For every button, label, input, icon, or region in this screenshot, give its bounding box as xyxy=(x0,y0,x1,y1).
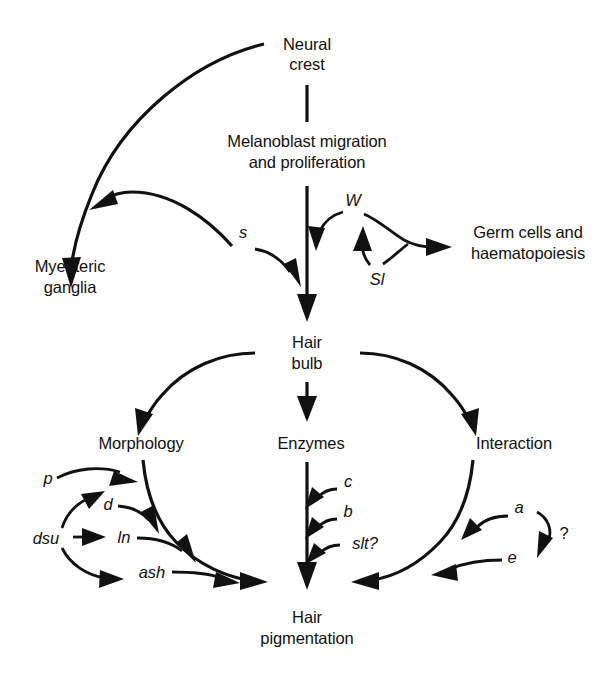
edge-sl-to-germ-branch xyxy=(383,244,408,264)
gene-label-sl: Sl xyxy=(370,270,386,288)
node-label-melanoblast-line1: Melanoblast migration xyxy=(227,132,386,150)
node-label-morphology: Morphology xyxy=(98,434,184,452)
edge-ash-to-hair-pigmentation xyxy=(172,572,222,578)
node-label-germ-cells-line1: Germ cells and xyxy=(473,223,583,241)
edge-dsu-to-d xyxy=(62,498,89,528)
arrowhead-sl-upward xyxy=(353,226,372,251)
gene-label-s: s xyxy=(239,223,247,241)
node-label-interaction: Interaction xyxy=(476,434,552,452)
pathway-diagram: Neural crest Melanoblast migration and p… xyxy=(0,0,615,678)
node-label-germ-cells-line2: haematopoiesis xyxy=(471,244,585,262)
gene-label-ln: ln xyxy=(118,528,131,546)
edge-p-to-morphology-spine xyxy=(57,469,120,478)
gene-label-e: e xyxy=(507,548,516,566)
node-label-myenteric-ganglia-line2: ganglia xyxy=(44,278,97,296)
edge-s-to-trunk xyxy=(255,249,290,272)
edge-hair-bulb-to-interaction xyxy=(360,353,469,420)
gene-label-b: b xyxy=(343,502,352,520)
arrowhead-interaction-to-hair-pigmentation xyxy=(351,572,379,590)
arrowhead-dsu-to-ash xyxy=(99,570,124,588)
arrowhead-to-germ-cells xyxy=(426,238,452,256)
arrowhead-s-to-trunk xyxy=(284,258,301,287)
arrowhead-dsu-to-ln xyxy=(82,528,106,546)
edge-a-to-interaction-spine xyxy=(477,516,508,527)
arrowhead-p-to-spine xyxy=(109,471,138,486)
node-label-hair-bulb-line1: Hair xyxy=(292,333,322,351)
gene-label-slt: slt? xyxy=(352,534,379,552)
arrowhead-enzymes-to-hair-pigmentation xyxy=(297,562,317,590)
edge-e-to-interaction-spine xyxy=(450,560,502,569)
gene-label-d: d xyxy=(103,495,113,513)
annotation-question-mark: ? xyxy=(559,524,568,542)
gene-label-c: c xyxy=(344,472,353,490)
arrowhead-dsu-to-d xyxy=(81,491,105,509)
gene-label-p: p xyxy=(42,469,52,487)
edge-dsu-to-ash xyxy=(62,548,105,578)
edge-interaction-to-hair-pigmentation xyxy=(372,460,473,580)
arrowhead-e-to-spine xyxy=(431,564,458,581)
arrowhead-melanoblast-to-hair-bulb xyxy=(297,294,317,322)
node-label-enzymes: Enzymes xyxy=(277,434,344,452)
edge-hair-bulb-to-morphology xyxy=(145,353,255,420)
node-label-hair-pigmentation-line2: pigmentation xyxy=(260,629,353,647)
node-label-hair-pigmentation-line1: Hair xyxy=(292,608,322,626)
pathway-svg-canvas: Neural crest Melanoblast migration and p… xyxy=(0,0,615,678)
arrowhead-slt-to-spine xyxy=(306,543,326,564)
node-label-myenteric-ganglia-line1: Myenteric xyxy=(35,257,106,275)
arrowhead-morphology-to-hair-pigmentation xyxy=(240,572,268,590)
gene-label-w: W xyxy=(345,191,362,209)
edge-s-to-myenteric-ganglia xyxy=(104,192,232,246)
node-label-melanoblast-line2: and proliferation xyxy=(249,153,366,171)
edge-neural-crest-to-myenteric-ganglia xyxy=(72,44,264,262)
gene-label-dsu: dsu xyxy=(33,529,60,547)
arrowhead-w-to-trunk xyxy=(308,226,325,251)
node-label-neural-crest-line1: Neural xyxy=(283,35,331,53)
arrowhead-hair-bulb-to-enzymes xyxy=(297,396,317,422)
edge-w-to-germ-cells xyxy=(364,214,434,247)
arrowhead-a-to-spine xyxy=(461,518,482,540)
gene-label-ash: ash xyxy=(139,563,166,581)
gene-label-a: a xyxy=(514,498,523,516)
node-label-hair-bulb-line2: bulb xyxy=(292,354,323,372)
node-label-neural-crest-line2: crest xyxy=(289,55,325,73)
